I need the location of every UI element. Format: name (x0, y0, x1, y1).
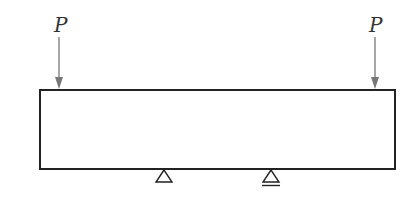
load-left: P (53, 13, 68, 89)
roller-support (262, 170, 280, 186)
triangle-icon (263, 170, 279, 182)
arrowhead-icon (371, 77, 379, 89)
pin-support (156, 170, 172, 182)
triangle-icon (156, 170, 172, 182)
arrowhead-icon (55, 77, 63, 89)
load-right: P (368, 13, 383, 89)
beam-diagram: P P (0, 0, 414, 208)
beam (40, 90, 395, 169)
load-label-right: P (368, 13, 383, 37)
load-label-left: P (53, 13, 68, 37)
